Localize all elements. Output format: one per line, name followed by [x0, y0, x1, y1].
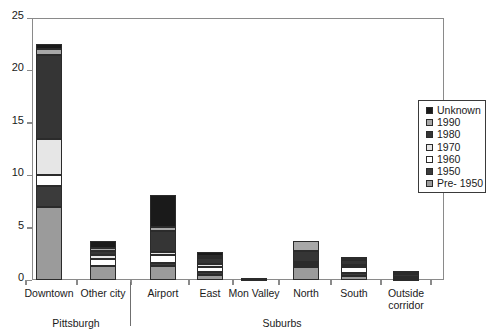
bar-airport [150, 18, 176, 280]
bar-segment [293, 267, 319, 280]
legend-swatch-icon [426, 144, 433, 151]
bars-layer [32, 18, 444, 280]
y-axis-tick: 10 [0, 175, 32, 176]
x-axis-tick [76, 280, 78, 285]
bar-segment [36, 186, 62, 207]
legend-label: 1970 [437, 142, 460, 153]
bar-segment [36, 44, 62, 49]
group-label-suburbs: Suburbs [222, 317, 342, 329]
bar-segment [150, 231, 176, 252]
y-tick-label: 15 [12, 115, 24, 126]
legend-item[interactable]: Pre- 1950 [426, 178, 483, 189]
bar-segment [341, 260, 367, 265]
legend-label: 1980 [437, 129, 460, 140]
bar-segment [150, 255, 176, 263]
legend: Unknown19901980197019601950Pre- 1950 [418, 100, 486, 193]
y-tick-label: 5 [18, 220, 24, 231]
bar-downtown [36, 18, 62, 280]
bar-mon-valley [241, 18, 267, 280]
bar-segment [197, 275, 223, 280]
legend-item[interactable]: 1970 [426, 142, 460, 153]
legend-item[interactable]: 1990 [426, 117, 460, 128]
bar-east [197, 18, 223, 280]
bar-outside-corridor [393, 18, 419, 280]
bar-segment [341, 273, 367, 276]
legend-item[interactable]: 1960 [426, 154, 460, 165]
bar-segment [150, 252, 176, 255]
bar-segment [150, 227, 176, 231]
y-axis-tick: 15 [0, 123, 32, 124]
bar-other-city [90, 18, 116, 280]
x-axis-tick [380, 280, 382, 285]
y-tick-label: 0 [18, 272, 24, 283]
legend-swatch-icon [426, 168, 433, 175]
bar-segment [293, 264, 319, 266]
bar-segment [341, 257, 367, 259]
bar-segment [197, 264, 223, 267]
legend-swatch-icon [426, 156, 433, 163]
y-axis-tick: 5 [0, 228, 32, 229]
bar-segment [90, 255, 116, 259]
bar-segment [90, 259, 116, 266]
bar-segment [341, 267, 367, 272]
bar-segment [293, 251, 319, 263]
legend-swatch-icon [426, 107, 433, 114]
bar-segment [90, 241, 116, 247]
x-axis-tick [25, 280, 27, 285]
x-axis-label-outside-corridor: Outside corridor [369, 287, 443, 311]
bar-segment [197, 267, 223, 271]
y-tick-label: 25 [12, 10, 24, 21]
legend-label: 1950 [437, 166, 460, 177]
bar-segment [90, 266, 116, 280]
legend-label: Pre- 1950 [437, 178, 483, 189]
bar-segment [36, 207, 62, 280]
legend-item[interactable]: 1950 [426, 166, 460, 177]
bar-segment [150, 266, 176, 280]
bar-segment [393, 271, 419, 273]
bar-segment [341, 276, 367, 280]
bar-segment [341, 265, 367, 267]
bar-segment [197, 256, 223, 258]
bar-north [293, 18, 319, 280]
group-label-pittsburgh: Pittsburgh [16, 317, 136, 329]
legend-item[interactable]: 1980 [426, 129, 460, 140]
legend-label: 1960 [437, 154, 460, 165]
y-axis-tick: 0 [0, 280, 32, 281]
legend-item[interactable]: Unknown [426, 105, 481, 116]
stacked-bar-chart: 0510152025 DowntownOther cityAirportEast… [0, 0, 497, 335]
legend-swatch-icon [426, 131, 433, 138]
legend-swatch-icon [426, 119, 433, 126]
y-tick-label: 20 [12, 62, 24, 73]
legend-swatch-icon [426, 180, 433, 187]
bar-segment [36, 175, 62, 185]
y-axis-tick: 20 [0, 70, 32, 71]
bar-segment [90, 251, 116, 255]
bar-segment [393, 277, 419, 279]
x-axis-tick [232, 280, 234, 285]
bar-segment [36, 49, 62, 54]
bar-segment [90, 248, 116, 251]
bar-segment [197, 258, 223, 264]
x-axis-tick [278, 280, 280, 285]
y-axis-tick: 25 [0, 18, 32, 19]
bar-segment [241, 278, 267, 280]
bar-segment [36, 55, 62, 139]
bar-segment [197, 272, 223, 275]
y-tick-label: 10 [12, 167, 24, 178]
x-axis-tick [188, 280, 190, 285]
x-axis-tick [330, 280, 332, 285]
bar-segment [197, 252, 223, 256]
bar-segment [150, 195, 176, 226]
x-axis-tick [430, 280, 432, 285]
bar-south [341, 18, 367, 280]
bar-segment [150, 263, 176, 266]
bar-segment [36, 139, 62, 176]
bar-segment [293, 241, 319, 250]
legend-label: 1990 [437, 117, 460, 128]
bar-segment [293, 262, 319, 264]
bar-segment [393, 273, 419, 275]
legend-label: Unknown [437, 105, 481, 116]
